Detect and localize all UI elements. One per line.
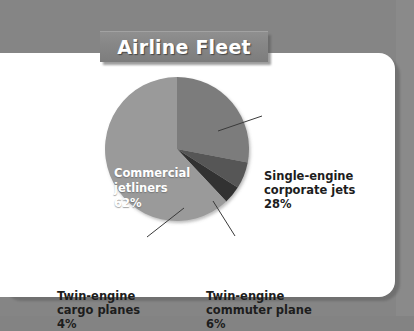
slice-label-twin-engine-commuter-plane: Twin-engine commuter plane 6% [206, 289, 312, 331]
slice-label-line1: Commercial [114, 166, 190, 181]
slice-label-line2: jetliners [114, 181, 190, 196]
slice-label-value: 28% [264, 197, 355, 211]
slice-label-value: 4% [57, 317, 140, 331]
pie-chart: Commercial jetliners 62% Single-engine c… [0, 53, 414, 316]
slice-label-value: 6% [206, 317, 312, 331]
slice-label-line2: commuter plane [206, 303, 312, 317]
slice-label-value: 62% [114, 196, 190, 211]
slice-label-twin-engine-cargo-planes: Twin-engine cargo planes 4% [57, 289, 140, 331]
slice-label-line1: Twin-engine [57, 289, 140, 303]
leader-line-commuter [213, 201, 235, 236]
slice-label-line2: corporate jets [264, 183, 355, 197]
slice-label-line2: cargo planes [57, 303, 140, 317]
slice-label-line1: Twin-engine [206, 289, 312, 303]
slice-label-line1: Single-engine [264, 169, 355, 183]
pie-slice-single-engine-corporate-jets[interactable] [177, 77, 249, 162]
slice-label-commercial-jetliners: Commercial jetliners 62% [114, 166, 190, 211]
slice-label-single-engine-corporate-jets: Single-engine corporate jets 28% [264, 169, 355, 211]
